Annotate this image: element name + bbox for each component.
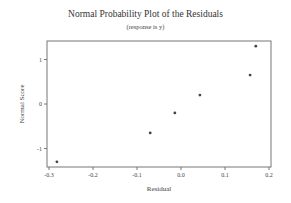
x-axis-label: Residual: [147, 185, 172, 193]
x-tick-label: -0.2: [88, 172, 98, 178]
data-point: [56, 160, 59, 163]
data-points: [56, 45, 258, 164]
x-tick-label: 0.2: [265, 172, 273, 178]
data-point: [149, 132, 152, 135]
y-tick-label: -1: [37, 146, 42, 152]
y-tick-label: 1: [39, 57, 42, 63]
scatter-plot: -0.3-0.2-0.10.00.10.2 -101 Residual Norm…: [0, 0, 291, 203]
data-point: [199, 94, 202, 97]
data-point: [249, 74, 252, 77]
data-point: [254, 45, 257, 48]
x-tick-label: 0.0: [177, 172, 185, 178]
y-axis: -101: [37, 57, 47, 152]
x-tick-label: -0.3: [44, 172, 54, 178]
y-axis-label: Normal Score: [18, 84, 26, 123]
x-tick-label: 0.1: [221, 172, 229, 178]
plot-frame: [47, 41, 271, 167]
x-axis: -0.3-0.2-0.10.00.10.2: [44, 167, 273, 178]
x-tick-label: -0.1: [132, 172, 142, 178]
y-tick-label: 0: [39, 101, 42, 107]
data-point: [173, 112, 176, 115]
